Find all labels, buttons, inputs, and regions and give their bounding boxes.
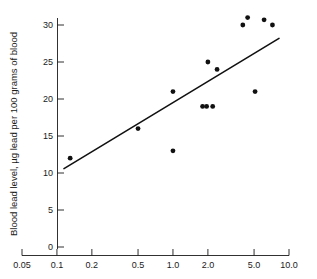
data-point: [136, 126, 141, 131]
x-tick-label-0.1: 0.1: [51, 260, 64, 270]
data-point: [270, 23, 275, 28]
data-point: [215, 67, 220, 72]
data-points: [68, 15, 275, 160]
x-tick-label-10.0: 10.0: [280, 260, 298, 270]
data-point: [171, 148, 176, 153]
data-point: [205, 60, 210, 65]
y-axis-title: Blood lead level, µg lead per 100 grams …: [8, 32, 19, 236]
y-axis-ticks: [58, 25, 65, 247]
x-tick-label-0.05: 0.05: [13, 260, 31, 270]
data-point: [210, 104, 215, 109]
data-point: [262, 17, 267, 22]
x-tick-label-5.0: 5.0: [248, 260, 261, 270]
y-tick-label-15: 15: [43, 131, 53, 141]
data-point: [245, 15, 250, 20]
x-tick-label-2.0: 2.0: [202, 260, 215, 270]
x-tick-label-1.0: 1.0: [167, 260, 180, 270]
scatter-plot-figure: 051015202530 0.050.10.20.51.02.05.010.0 …: [0, 0, 317, 279]
x-tick-label-0.2: 0.2: [86, 260, 99, 270]
data-point: [204, 104, 209, 109]
plot-canvas: 051015202530 0.050.10.20.51.02.05.010.0 …: [0, 0, 317, 279]
y-tick-label-5: 5: [48, 205, 53, 215]
data-point: [68, 156, 73, 161]
x-axis-ticks: [22, 249, 289, 256]
data-point: [240, 23, 245, 28]
y-axis-tick-labels: 051015202530: [43, 20, 53, 252]
y-tick-label-0: 0: [48, 242, 53, 252]
data-point: [171, 89, 176, 94]
x-tick-label-0.5: 0.5: [132, 260, 145, 270]
y-tick-label-20: 20: [43, 94, 53, 104]
y-tick-label-10: 10: [43, 168, 53, 178]
y-tick-label-30: 30: [43, 20, 53, 30]
data-point: [253, 89, 258, 94]
y-tick-label-25: 25: [43, 57, 53, 67]
x-axis-tick-labels: 0.050.10.20.51.02.05.010.0: [13, 260, 298, 270]
